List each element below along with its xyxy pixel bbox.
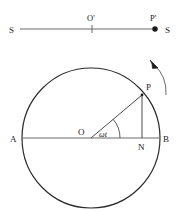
particle-point-dot: [141, 94, 144, 97]
figure-container: S S O' P' A B N P O ωt: [0, 0, 180, 211]
label-o-center: O: [78, 127, 85, 137]
label-p: P: [146, 82, 151, 92]
angle-arc-omega-t: [113, 119, 120, 138]
label-b: B: [163, 134, 169, 144]
label-n: N: [138, 142, 145, 152]
label-o-prime: O': [87, 13, 95, 23]
reference-circle-group: [22, 68, 160, 208]
rotation-arrow-head: [150, 60, 158, 69]
projection-point-dot: [152, 26, 157, 31]
label-s-right: S: [165, 25, 170, 35]
label-omega-t: ωt: [99, 130, 108, 139]
shm-reference-circle-diagram: S S O' P' A B N P O ωt: [0, 0, 180, 211]
rotation-direction-arrow: [150, 60, 166, 95]
rotation-arrow-arc: [154, 65, 166, 95]
label-p-prime: P': [150, 13, 157, 23]
shm-line-group: [20, 25, 158, 33]
label-s-left: S: [9, 25, 14, 35]
label-a: A: [10, 134, 17, 144]
